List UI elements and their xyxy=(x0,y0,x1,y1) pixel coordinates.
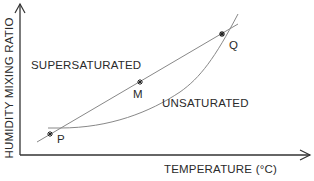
mixing-line xyxy=(37,24,238,142)
region-unsaturated-label: UNSATURATED xyxy=(162,98,249,110)
point-m-label: M xyxy=(133,89,143,101)
y-axis-label: HUMIDITY MIXING RATIO xyxy=(4,17,16,158)
point-q-label: Q xyxy=(229,40,238,52)
point-p-label: P xyxy=(57,134,65,146)
x-axis xyxy=(20,150,310,160)
region-supersaturated-label: SUPERSATURATED xyxy=(31,60,141,72)
diagram-canvas xyxy=(0,0,314,181)
y-axis xyxy=(15,4,25,155)
x-axis-label: TEMPERATURE (°C) xyxy=(164,164,277,176)
